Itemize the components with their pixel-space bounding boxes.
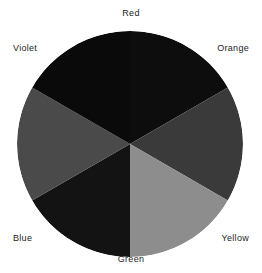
wheel-segments	[17, 31, 243, 257]
wheel-label-violet: Violet	[13, 44, 37, 53]
wheel-label-orange: Orange	[217, 44, 249, 53]
wheel-label-green: Green	[0, 255, 262, 264]
wheel-label-yellow: Yellow	[222, 234, 250, 243]
wheel-label-blue: Blue	[13, 234, 32, 243]
wheel-label-red: Red	[0, 9, 262, 18]
color-wheel-figure: Red Violet Orange Blue Yellow Green	[0, 0, 262, 273]
